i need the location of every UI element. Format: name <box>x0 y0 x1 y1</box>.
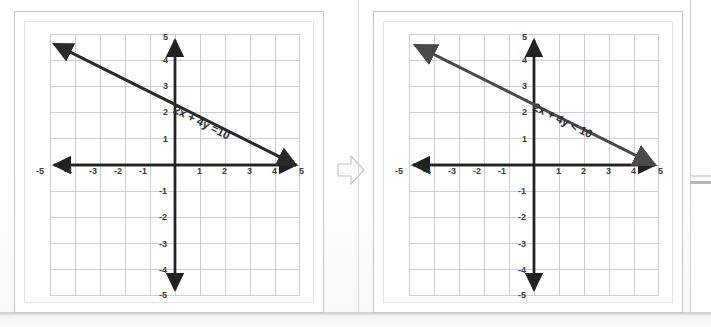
x-tick--5: -5 <box>395 166 403 176</box>
y-tick-1: 1 <box>163 134 168 144</box>
edge-rule-light <box>690 175 711 177</box>
inequality-graph-panel: 2x + 4y < 10 -5 -4 -3 -2 -1 1 2 3 4 5 5 … <box>373 11 683 313</box>
y-axis-tick-labels: 5 4 3 2 1 -1 -2 -3 -4 -5 <box>50 34 300 296</box>
equation-coordinate-plane: 2x + 4y =10 -5 -4 -3 -2 -1 1 2 3 4 5 5 4… <box>50 34 300 296</box>
y-tick-2: 2 <box>163 107 168 117</box>
y-tick--5: -5 <box>159 290 167 300</box>
y-tick--1: -1 <box>159 186 167 196</box>
y-tick--1: -1 <box>518 186 526 196</box>
y-tick-5: 5 <box>522 32 527 42</box>
page-bottom-band <box>0 313 711 327</box>
y-tick--2: -2 <box>518 212 526 222</box>
y-tick-1: 1 <box>522 134 527 144</box>
y-tick-3: 3 <box>522 81 527 91</box>
y-tick--3: -3 <box>159 239 167 249</box>
y-tick--3: -3 <box>518 239 526 249</box>
equation-graph-panel: 2x + 4y =10 -5 -4 -3 -2 -1 1 2 3 4 5 5 4… <box>14 11 324 313</box>
y-tick--4: -4 <box>518 265 526 275</box>
page-right-edge-strip <box>690 0 711 313</box>
y-tick--4: -4 <box>159 265 167 275</box>
inequality-coordinate-plane: 2x + 4y < 10 -5 -4 -3 -2 -1 1 2 3 4 5 5 … <box>409 34 659 296</box>
y-tick-2: 2 <box>522 107 527 117</box>
y-tick-5: 5 <box>163 32 168 42</box>
y-axis-tick-labels: 5 4 3 2 1 -1 -2 -3 -4 -5 <box>409 34 659 296</box>
page-gutter-divider <box>358 0 359 313</box>
x-tick--5: -5 <box>36 166 44 176</box>
right-chevron-arrow-icon <box>336 152 366 188</box>
y-tick--2: -2 <box>159 212 167 222</box>
edge-rule-dark <box>690 181 711 184</box>
y-tick-3: 3 <box>163 81 168 91</box>
y-tick-4: 4 <box>522 55 527 65</box>
y-tick--5: -5 <box>518 290 526 300</box>
y-tick-4: 4 <box>163 55 168 65</box>
